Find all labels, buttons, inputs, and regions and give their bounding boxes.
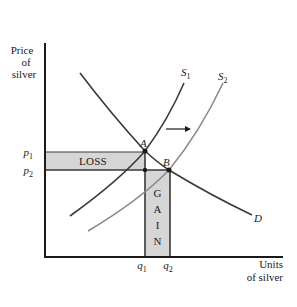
y-axis-label-line1: Price: [11, 44, 34, 56]
y-axis-label-line2: of: [21, 56, 31, 68]
quantity-tick-q1: q1: [137, 259, 147, 274]
quantity-tick-q2: q2: [163, 259, 173, 274]
price-tick-p2: p2: [23, 164, 34, 179]
curve-label-d: D: [253, 212, 262, 224]
gain-label-n: N: [154, 235, 162, 247]
loss-label: LOSS: [79, 155, 107, 167]
x-axis-label-line1: Units: [259, 258, 283, 270]
point-label-b: B: [163, 156, 170, 168]
point-b-marker: [167, 168, 172, 173]
curve-label-s1: S1: [181, 66, 191, 81]
x-axis-label-line2: of silver: [247, 271, 284, 283]
gain-label-g: G: [154, 187, 162, 199]
point-label-a: A: [139, 137, 147, 149]
gain-label-i: I: [156, 219, 160, 231]
q1-p2-marker: [143, 168, 147, 172]
y-axis-label-line3: silver: [12, 68, 37, 80]
gain-label-a: A: [154, 203, 162, 215]
supply-shift-diagram: Price of silver Units of silver p1 p2 q1…: [0, 0, 297, 307]
price-tick-p1: p1: [23, 146, 34, 161]
point-a-marker: [143, 149, 148, 154]
curve-label-s2: S2: [218, 70, 228, 85]
arrowhead-icon: [185, 126, 191, 132]
